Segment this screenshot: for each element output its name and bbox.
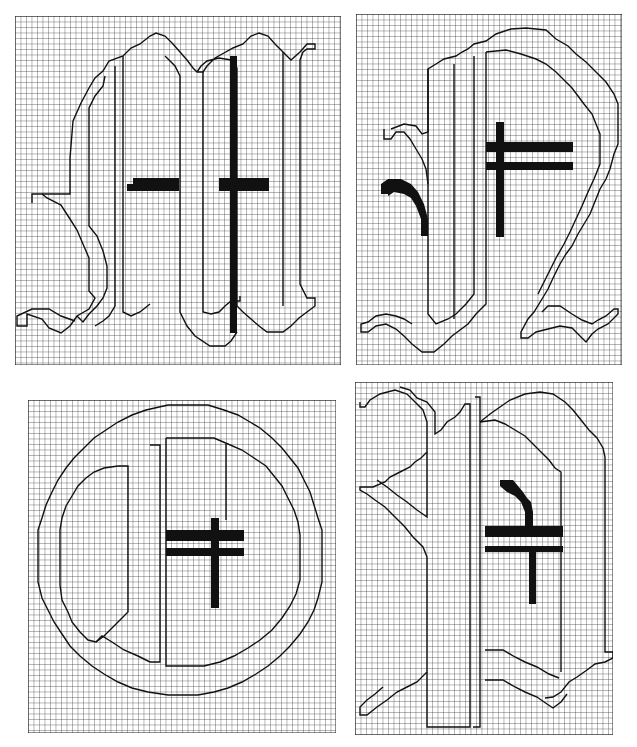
grid-drawing-o-glyph bbox=[28, 400, 336, 733]
grid-drawing-scroll-glyph bbox=[355, 382, 613, 735]
panel-top-right bbox=[356, 14, 622, 365]
grid-drawing-r-glyph bbox=[356, 14, 622, 365]
panel-top-left bbox=[15, 16, 341, 365]
panel-bottom-right bbox=[355, 382, 613, 735]
grid-drawing-m-glyph bbox=[15, 16, 341, 365]
panel-bottom-left bbox=[28, 400, 336, 733]
